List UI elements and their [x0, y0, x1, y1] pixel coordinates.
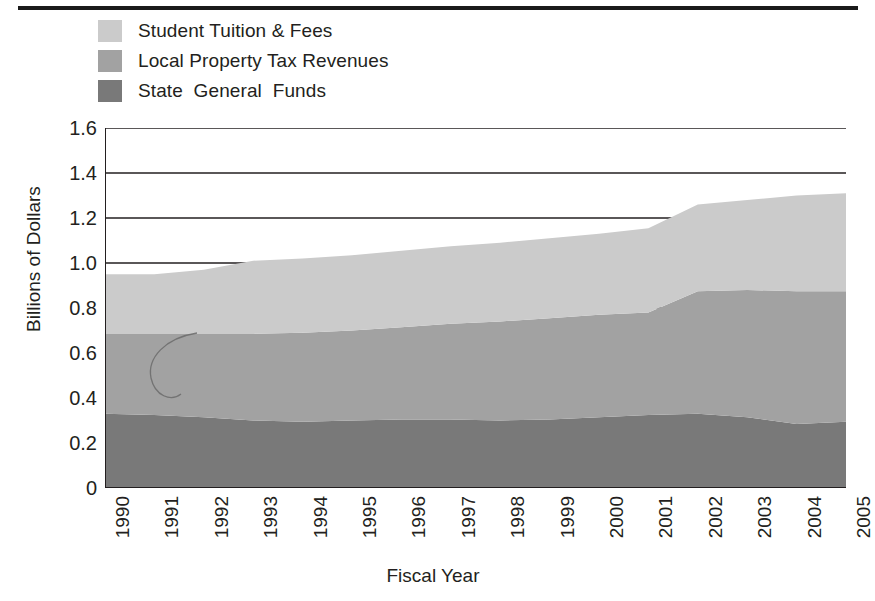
x-axis-tick-label-1991: 1991 — [161, 496, 183, 538]
legend-item-state-general-funds: State General Funds — [98, 76, 518, 106]
legend-label-local-property-tax-revenues: Local Property Tax Revenues — [138, 50, 389, 72]
y-axis-tick-label-1.4: 1.4 — [69, 162, 97, 185]
x-axis-title: Fiscal Year — [0, 565, 866, 587]
stacked-area-chart — [105, 128, 846, 488]
legend-swatch-local-property-tax-revenues — [98, 50, 122, 72]
x-axis-tick-label-1990: 1990 — [112, 496, 134, 538]
x-axis-tick-label-1997: 1997 — [458, 496, 480, 538]
x-axis-tick-label-1992: 1992 — [211, 496, 233, 538]
x-axis-tick-label-2005: 2005 — [853, 496, 875, 538]
legend-label-state-general-funds: State General Funds — [138, 80, 326, 102]
x-axis-tick-label-2004: 2004 — [804, 496, 826, 538]
x-axis-tick-label-1998: 1998 — [507, 496, 529, 538]
x-axis-tick-label-2000: 2000 — [606, 496, 628, 538]
plot-area — [105, 128, 846, 488]
legend-item-local-property-tax-revenues: Local Property Tax Revenues — [98, 46, 518, 76]
y-axis-tick-label-0.4: 0.4 — [69, 387, 97, 410]
y-axis-tick-label-1.6: 1.6 — [69, 117, 97, 140]
y-axis-tick-label-0.2: 0.2 — [69, 432, 97, 455]
y-axis-tick-label-0.6: 0.6 — [69, 342, 97, 365]
x-axis-tick-label-2003: 2003 — [754, 496, 776, 538]
x-axis-tick-label-1995: 1995 — [359, 496, 381, 538]
y-axis-tick-label-0: 0 — [86, 477, 97, 500]
x-axis-tick-label-1993: 1993 — [260, 496, 282, 538]
x-axis-tick-label-2001: 2001 — [655, 496, 677, 538]
y-axis-tick-label-0.8: 0.8 — [69, 297, 97, 320]
x-axis-tick-label-2002: 2002 — [705, 496, 727, 538]
x-axis-tick-label-1996: 1996 — [408, 496, 430, 538]
y-axis-tick-label-1.2: 1.2 — [69, 207, 97, 230]
y-axis-tick-labels: 1.61.41.21.00.80.60.40.20 — [55, 128, 97, 488]
chart-legend: Student Tuition & Fees Local Property Ta… — [98, 16, 518, 106]
legend-swatch-student-tuition-fees — [98, 20, 122, 42]
y-axis-tick-label-1.0: 1.0 — [69, 252, 97, 275]
legend-label-student-tuition-fees: Student Tuition & Fees — [138, 20, 332, 42]
top-divider-rule — [18, 6, 858, 10]
x-axis-tick-label-1994: 1994 — [310, 496, 332, 538]
area-state-general-funds — [105, 414, 846, 488]
x-axis-tick-label-1999: 1999 — [557, 496, 579, 538]
y-axis-title: Billions of Dollars — [23, 159, 45, 359]
legend-item-student-tuition-fees: Student Tuition & Fees — [98, 16, 518, 46]
legend-swatch-state-general-funds — [98, 80, 122, 102]
